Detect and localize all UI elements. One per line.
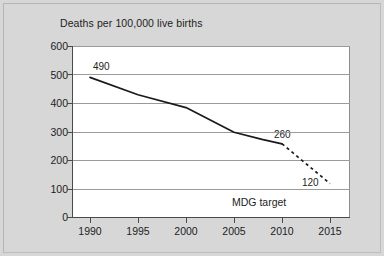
y-tick-label-200: 200 xyxy=(28,155,68,165)
y-tick-label-0: 0 xyxy=(28,212,68,222)
chart-figure: Deaths per 100,000 live births 600 500 4… xyxy=(0,0,384,256)
x-tick-label-2015: 2015 xyxy=(307,226,353,236)
y-tick-label-400: 400 xyxy=(28,98,68,108)
x-tick-label-2000: 2000 xyxy=(163,226,209,236)
chart-plot-svg xyxy=(72,46,350,218)
x-tick-label-2005: 2005 xyxy=(211,226,257,236)
x-tick-label-2010: 2010 xyxy=(259,226,305,236)
x-tick-label-1995: 1995 xyxy=(115,226,161,236)
y-tick-label-300: 300 xyxy=(28,127,68,137)
x-tick-label-1990: 1990 xyxy=(67,226,113,236)
series-line-projection xyxy=(282,144,330,184)
x-axis-ticks xyxy=(90,218,330,224)
chart-title: Deaths per 100,000 live births xyxy=(60,17,203,29)
series-line-observed xyxy=(90,77,282,143)
gridlines xyxy=(72,47,350,190)
y-tick-label-100: 100 xyxy=(28,184,68,194)
y-tick-label-500: 500 xyxy=(28,70,68,80)
y-tick-label-600: 600 xyxy=(28,41,68,51)
